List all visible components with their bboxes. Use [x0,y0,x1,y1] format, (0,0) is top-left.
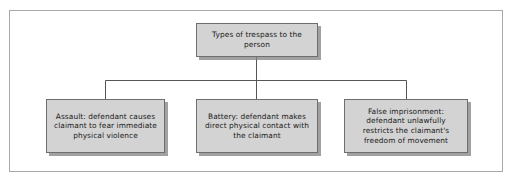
node-battery: Battery: defendant makes direct physical… [196,99,318,153]
node-label-root: Types of trespass to the person [197,30,317,49]
diagram-canvas: Types of trespass to the person Assault:… [0,0,514,186]
node-types-of-trespass: Types of trespass to the person [196,23,318,57]
node-false-imprisonment: False imprisonment: defendant unlawfully… [344,99,468,153]
node-label-false-imprisonment: False imprisonment: defendant unlawfully… [345,107,467,145]
node-label-battery: Battery: defendant makes direct physical… [197,112,317,141]
node-assault: Assault: defendant causes claimant to fe… [46,99,165,153]
node-label-assault: Assault: defendant causes claimant to fe… [47,112,164,141]
